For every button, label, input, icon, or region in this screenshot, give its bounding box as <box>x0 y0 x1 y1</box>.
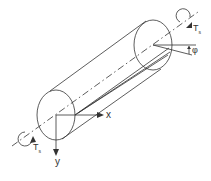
torque-arrow-bottom <box>18 132 32 146</box>
generator-line-original <box>75 48 169 115</box>
y-axis-label: y <box>55 157 60 167</box>
torque-top-sub: s <box>199 29 202 35</box>
y-arrow-head-icon <box>53 149 59 156</box>
twist-angle-label: φ <box>192 46 198 55</box>
back-radius-twisted <box>153 45 192 55</box>
shaft-torsion-diagram <box>0 0 211 181</box>
torque-top-arrowhead-icon <box>186 22 192 28</box>
phi-arrow-head-icon <box>187 46 191 49</box>
centerline-dash-dot <box>12 12 198 146</box>
x-arrow-head-icon <box>97 112 104 118</box>
torque-arrow-top <box>176 9 190 22</box>
x-axis-label: x <box>106 110 111 120</box>
cylinder-top-edge <box>50 21 146 91</box>
generator-line-inner <box>78 52 170 113</box>
torque-bottom-label: Ts <box>33 143 41 154</box>
torque-bottom-sub: s <box>39 148 42 154</box>
cylinder-bottom-edge <box>62 69 161 139</box>
torque-top-label: Ts <box>193 24 201 35</box>
